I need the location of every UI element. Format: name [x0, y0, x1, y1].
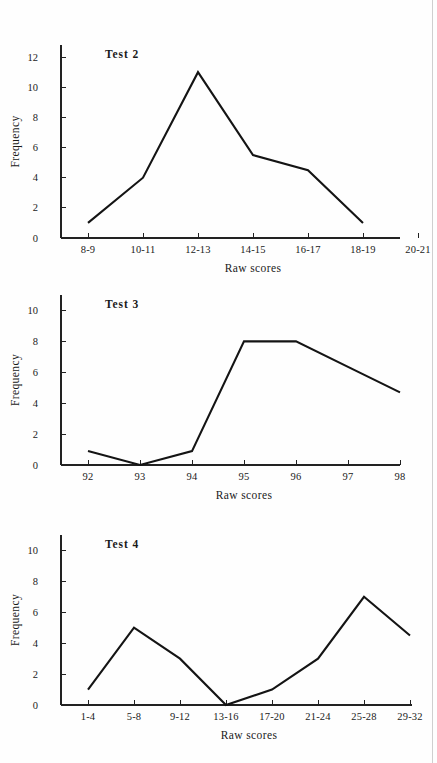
x-tick-label: 92 — [83, 471, 94, 482]
y-tick-label: 0 — [33, 460, 38, 471]
page-canvas: 0246810128-910-1112-1314-1516-1718-1920-… — [0, 0, 437, 763]
series-line-test-4 — [88, 597, 410, 705]
y-tick-label: 6 — [33, 607, 38, 618]
x-tick-label: 29-32 — [397, 711, 423, 722]
y-tick-label: 8 — [33, 336, 38, 347]
y-tick-label: 10 — [28, 545, 39, 556]
x-axis-label: Raw scores — [216, 489, 273, 501]
x-tick-label: 8-9 — [81, 244, 96, 255]
y-tick-label: 6 — [33, 367, 38, 378]
y-axis-label: Frequency — [9, 115, 22, 167]
x-tick-label: 12-13 — [185, 244, 211, 255]
y-tick-label: 10 — [28, 305, 39, 316]
x-tick-label: 13-16 — [213, 711, 239, 722]
series-line-test-2 — [88, 72, 363, 223]
x-tick-label: 95 — [239, 471, 250, 482]
x-axis-label: Raw scores — [225, 262, 282, 274]
y-axis-label: Frequency — [9, 594, 22, 646]
chart-plot-test-3: 024681092939495969798Test 3Raw scoresFre… — [0, 285, 437, 510]
y-tick-label: 0 — [33, 233, 38, 244]
chart-title: Test 4 — [105, 538, 139, 550]
y-tick-label: 4 — [33, 172, 39, 183]
x-tick-label: 25-28 — [351, 711, 377, 722]
x-tick-label: 21-24 — [305, 711, 331, 722]
chart-plot-test-2: 0246810128-910-1112-1314-1516-1718-1920-… — [0, 20, 437, 285]
x-tick-label: 17-20 — [259, 711, 285, 722]
x-tick-label: 94 — [187, 471, 198, 482]
y-tick-label: 6 — [33, 142, 38, 153]
y-tick-label: 4 — [33, 398, 39, 409]
chart-title: Test 2 — [105, 48, 139, 60]
x-tick-label: 96 — [291, 471, 302, 482]
y-tick-label: 8 — [33, 112, 38, 123]
x-tick-label: 1-4 — [81, 711, 96, 722]
x-tick-label: 9-12 — [170, 711, 190, 722]
chart-plot-test-4: 02468101-45-89-1213-1617-2021-2425-2829-… — [0, 515, 437, 750]
y-tick-label: 2 — [33, 669, 38, 680]
chart-test-4: 02468101-45-89-1213-1617-2021-2425-2829-… — [0, 515, 437, 750]
x-tick-label: 10-11 — [130, 244, 155, 255]
x-tick-label: 16-17 — [295, 244, 321, 255]
x-tick-label: 14-15 — [240, 244, 266, 255]
x-tick-label: 93 — [135, 471, 146, 482]
y-axis-label: Frequency — [9, 354, 22, 406]
x-tick-label: 18-19 — [350, 244, 376, 255]
x-tick-label: 20-21 — [405, 244, 431, 255]
chart-test-2: 0246810128-910-1112-1314-1516-1718-1920-… — [0, 20, 437, 285]
chart-test-3: 024681092939495969798Test 3Raw scoresFre… — [0, 285, 437, 510]
x-tick-label: 97 — [343, 471, 354, 482]
y-tick-label: 2 — [33, 429, 38, 440]
chart-title: Test 3 — [105, 298, 139, 310]
x-axis-label: Raw scores — [221, 729, 278, 741]
series-line-test-3 — [88, 341, 400, 465]
y-tick-label: 10 — [28, 82, 39, 93]
x-tick-label: 5-8 — [127, 711, 142, 722]
y-tick-label: 2 — [33, 202, 38, 213]
x-tick-label: 98 — [395, 471, 406, 482]
y-tick-label: 0 — [33, 700, 38, 711]
y-tick-label: 12 — [28, 52, 39, 63]
y-tick-label: 4 — [33, 638, 39, 649]
y-tick-label: 8 — [33, 576, 38, 587]
